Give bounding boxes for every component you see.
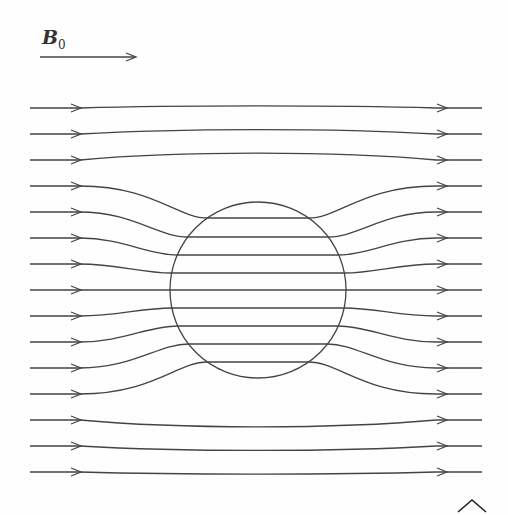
field-lines-svg (0, 0, 508, 515)
field-line (30, 130, 482, 134)
field-line (30, 472, 482, 474)
field-line (30, 326, 482, 342)
field-line (30, 106, 482, 108)
field-line (30, 308, 482, 316)
caret-up-icon (458, 500, 486, 512)
field-line (30, 264, 482, 273)
field-line (30, 153, 482, 160)
field-lines-diagram: B0 (0, 0, 508, 515)
field-line (30, 344, 482, 368)
b0-arrow (40, 53, 136, 61)
field-line (30, 212, 482, 237)
field-lines (30, 104, 482, 476)
field-line (30, 420, 482, 427)
field-line (30, 446, 482, 450)
field-line (30, 238, 482, 255)
